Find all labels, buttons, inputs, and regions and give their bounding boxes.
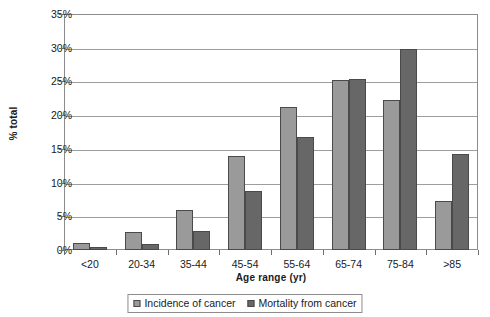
bar-group: [219, 14, 271, 250]
legend-swatch-icon: [248, 300, 255, 307]
bar-incidence: [435, 201, 452, 250]
bar-group: [323, 14, 375, 250]
bars-layer: [64, 14, 478, 250]
bar-mortality: [90, 247, 107, 250]
x-tick-mark: [64, 250, 65, 255]
bar-mortality: [193, 231, 210, 250]
bar-chart: % total 0%5%10%15%20%25%30%35% <2020-343…: [0, 0, 490, 317]
bar-mortality: [400, 49, 417, 250]
bar-group: [375, 14, 427, 250]
x-tick-mark: [426, 250, 427, 255]
legend-item: Incidence of cancer: [133, 297, 235, 309]
bar-group: [64, 14, 116, 250]
x-tick-mark: [168, 250, 169, 255]
bar-mortality: [452, 154, 469, 250]
bar-incidence: [176, 210, 193, 250]
bar-group: [116, 14, 168, 250]
x-tick-mark: [271, 250, 272, 255]
x-tick-mark: [375, 250, 376, 255]
bar-group: [168, 14, 220, 250]
bar-mortality: [142, 244, 159, 250]
y-axis-title: % total: [8, 94, 19, 154]
bar-group: [271, 14, 323, 250]
bar-incidence: [332, 80, 349, 250]
x-tick-mark: [478, 250, 479, 255]
bar-incidence: [280, 107, 297, 250]
bar-mortality: [297, 137, 314, 250]
bar-mortality: [245, 191, 262, 250]
x-tick-label: >85: [417, 258, 487, 270]
x-axis-title: Age range (yr): [64, 272, 478, 283]
bar-group: [426, 14, 478, 250]
legend-swatch-icon: [133, 300, 140, 307]
bar-incidence: [228, 156, 245, 250]
x-tick-mark: [219, 250, 220, 255]
legend-label: Incidence of cancer: [144, 297, 235, 309]
bar-mortality: [349, 79, 366, 250]
legend-label: Mortality from cancer: [259, 297, 357, 309]
bar-incidence: [73, 243, 90, 250]
x-tick-mark: [323, 250, 324, 255]
bar-incidence: [125, 232, 142, 250]
bar-incidence: [383, 100, 400, 250]
x-tick-mark: [116, 250, 117, 255]
legend-item: Mortality from cancer: [248, 297, 357, 309]
chart-legend: Incidence of cancerMortality from cancer: [127, 294, 362, 313]
